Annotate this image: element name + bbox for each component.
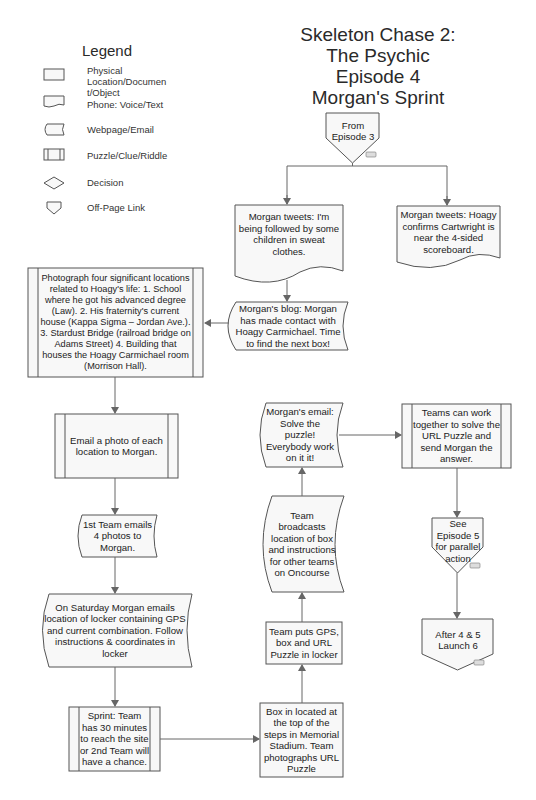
node-teams-work: Teams can work together to solve the URL… [412,406,501,466]
node-box-located: Box in located at the top of the steps i… [261,705,342,775]
node-morgan-email: Morgan's email: Solve the puzzle! Everyb… [264,405,336,465]
node-sprint: Sprint: Team has 30 minutes to reach the… [79,709,150,769]
legend-stored-data-icon [45,124,64,135]
title-line-3: Episode 4 [268,66,488,87]
node-saturday-email: On Saturday Morgan emails location of lo… [42,596,188,665]
legend-label-physical: Physical Location/Documen t/Object [87,65,167,98]
legend-label-decision: Decision [87,177,207,188]
legend-decision-icon [44,177,64,189]
legend-label-offpage: Off-Page Link [87,202,207,213]
node-tweet-hoagy: Morgan tweets: Hoagy confirms Cartwright… [399,208,498,256]
node-see-episode-5: See Episode 5 for parallel action [434,519,482,563]
node-team-broadcasts: Team broadcasts location of box and inst… [268,498,336,590]
legend-title: Legend [82,42,132,59]
title-line-2: The Psychic [268,45,488,66]
legend-label-phone: Phone: Voice/Text [87,99,207,110]
node-from-episode-3: From Episode 3 [330,117,376,145]
node-team-puts: Team puts GPS, box and URL Puzzle in loc… [267,624,341,662]
legend-predefined-process-icon [44,149,64,160]
node-first-team-emails: 1st Team emails 4 photos to Morgan. [80,517,155,555]
legend-label-puzzle: Puzzle/Clue/Riddle [87,150,207,161]
legend-document-icon [44,96,64,107]
node-after-4-5: After 4 & 5 Launch 6 [428,626,488,654]
node-blog: Morgan's blog: Morgan has made contact w… [234,303,342,349]
legend-offpage-icon [47,202,61,214]
legend-label-webpage: Webpage/Email [87,124,207,135]
legend-rectangle-icon [44,69,64,80]
node-email-photo: Email a photo of each location to Morgan… [66,416,167,476]
title-line-1: Skeleton Chase 2: [268,24,488,45]
title-line-4: Morgan's Sprint [268,87,488,108]
node-photograph-locations: Photograph four significant locations re… [39,270,192,375]
flowchart-canvas [0,0,536,800]
node-tweet-followed: Morgan tweets: I'm being followed by som… [238,208,340,260]
page-title: Skeleton Chase 2: The Psychic Episode 4 … [268,24,488,108]
